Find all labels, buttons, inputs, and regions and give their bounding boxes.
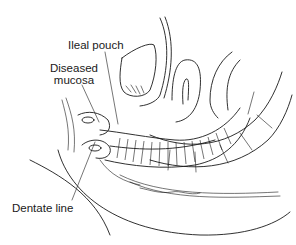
suture-line [110,140,215,149]
label-diseased-mucosa: Diseased mucosa [50,62,98,86]
vertebra-divider [257,115,272,128]
label-diseased-mucosa-line2: mucosa [50,74,98,86]
sacral-curve-outer [150,95,292,167]
sphincter-cross-section [82,117,94,123]
vertebra-divider [195,152,196,172]
anal-sphincter-upper [78,112,110,135]
colon-hatching [117,128,231,166]
ileal-pouch-shape [120,44,156,96]
sphincter-cross-section [89,145,101,151]
perineal-contour [30,160,110,235]
label-diseased-mucosa-line1: Diseased [50,62,98,74]
soft-tissue-line [120,175,278,193]
abdominal-wall-inner [164,17,171,98]
small-stroke [248,92,254,114]
vertebra-divider [240,133,252,150]
colon-upper-wall [100,108,240,140]
dentate-line-leader-line [72,142,95,200]
uterus-outline [172,60,200,122]
label-dentate-line: Dentate line [12,202,73,214]
soft-tissue-line [130,182,280,197]
outer-body-contour [58,150,290,235]
skin-fold [62,100,69,150]
diseased-mucosa-leader-line [82,85,99,122]
posterior-curve-inner [227,60,240,110]
uterus-cavity [183,79,189,104]
posterior-curve [210,52,232,118]
anatomical-illustration: Ileal pouch Diseased mucosa Dentate line [0,0,296,245]
label-ileal-pouch: Ileal pouch [68,39,124,51]
pouch-folds [126,85,144,94]
ileal-pouch-leader-line [105,52,118,124]
lower-wall [100,160,140,185]
anal-sphincter-lower [82,140,110,158]
